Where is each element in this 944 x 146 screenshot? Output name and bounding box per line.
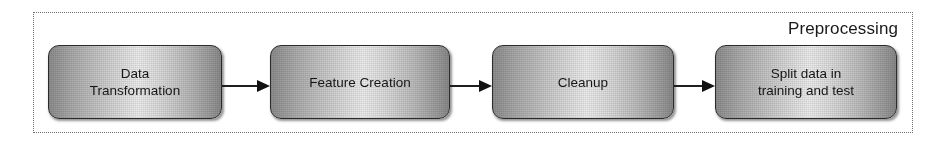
node-label: Split data in training and test — [750, 65, 862, 99]
diagram-canvas: Preprocessing Data Transformation Featur… — [0, 0, 944, 146]
process-node-split-data[interactable]: Split data in training and test — [715, 45, 897, 119]
connector-arrow-2 — [450, 80, 492, 92]
process-node-data-transformation[interactable]: Data Transformation — [48, 45, 222, 119]
process-node-cleanup[interactable]: Cleanup — [492, 45, 674, 119]
arrow-head-icon — [702, 80, 715, 92]
group-title-preprocessing: Preprocessing — [788, 19, 898, 39]
arrow-head-icon — [479, 80, 492, 92]
arrow-shaft — [674, 85, 703, 87]
process-node-feature-creation[interactable]: Feature Creation — [270, 45, 450, 119]
connector-arrow-3 — [674, 80, 715, 92]
node-label: Cleanup — [550, 74, 616, 91]
node-label: Feature Creation — [301, 74, 418, 91]
arrow-shaft — [450, 85, 480, 87]
node-label: Data Transformation — [82, 65, 188, 99]
arrow-shaft — [222, 85, 258, 87]
connector-arrow-1 — [222, 80, 270, 92]
arrow-head-icon — [257, 80, 270, 92]
